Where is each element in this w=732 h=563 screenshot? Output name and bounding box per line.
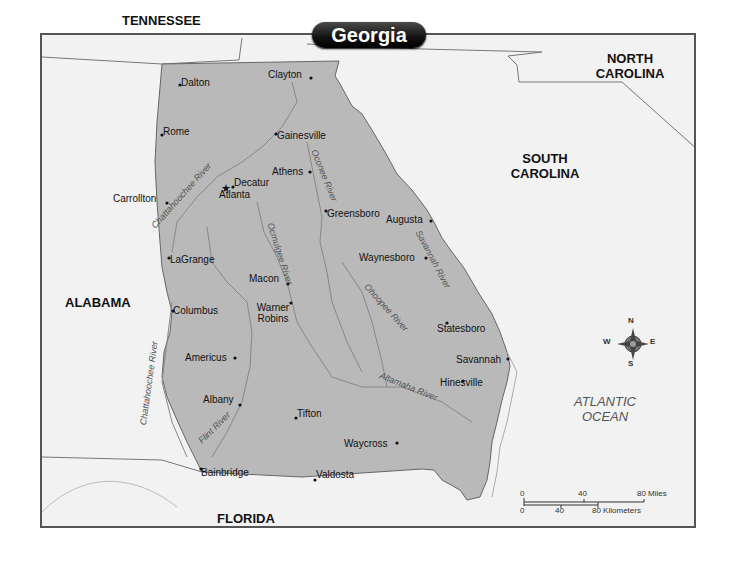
- state-label-north-carolina: NORTH CAROLINA: [590, 51, 670, 81]
- city-label: Waycross: [344, 438, 388, 449]
- scale-km-80: 80 Kilometers: [592, 506, 641, 515]
- scale-miles-40: 40: [578, 489, 587, 498]
- city-label: Americus: [185, 352, 227, 363]
- scale-miles-80: 80 Miles: [637, 489, 667, 498]
- city-label: Waynesboro: [359, 252, 415, 263]
- compass-s: S: [628, 359, 633, 368]
- city-label: Albany: [203, 394, 234, 405]
- city-label: Savannah: [456, 354, 501, 365]
- city-label: Warner Robins: [255, 302, 291, 324]
- city-label: Statesboro: [437, 323, 485, 334]
- compass-rose: [617, 328, 649, 360]
- city-label: Atlanta: [219, 189, 250, 200]
- compass-e: E: [650, 337, 655, 346]
- scale-km-40: 40: [555, 506, 564, 515]
- scale-miles-0: 0: [520, 489, 524, 498]
- city-label: Bainbridge: [201, 467, 249, 478]
- compass-n: N: [628, 316, 634, 325]
- city-label: Dalton: [181, 77, 210, 88]
- state-label-florida: FLORIDA: [217, 511, 275, 526]
- city-label: Carrollton: [113, 193, 156, 204]
- city-label: LaGrange: [170, 254, 214, 265]
- city-label: Augusta: [386, 214, 423, 225]
- city-label: Hinesville: [440, 377, 483, 388]
- city-label: Valdosta: [316, 469, 354, 480]
- ocean-label: ATLANTIC OCEAN: [565, 394, 645, 424]
- city-label: Tifton: [297, 408, 322, 419]
- city-label: Athens: [272, 166, 303, 177]
- tennessee-border: [42, 38, 242, 64]
- city-label: Clayton: [268, 69, 302, 80]
- map-frame: ★: [40, 33, 696, 528]
- city-label: Greensboro: [327, 208, 380, 219]
- city-label: Gainesville: [277, 130, 326, 141]
- city-label: Decatur: [234, 177, 269, 188]
- city-label: Macon: [249, 273, 279, 284]
- state-label-tennessee: TENNESSEE: [122, 13, 201, 28]
- map-title: Georgia: [312, 22, 426, 48]
- city-label: Columbus: [173, 305, 218, 316]
- city-label: Rome: [163, 126, 190, 137]
- florida-alabama-border: [42, 457, 202, 472]
- scale-km-0: 0: [520, 506, 524, 515]
- compass-w: W: [603, 337, 611, 346]
- state-label-south-carolina: SOUTH CAROLINA: [505, 151, 585, 181]
- state-label-alabama: ALABAMA: [65, 295, 131, 310]
- florida-coast: [42, 481, 177, 512]
